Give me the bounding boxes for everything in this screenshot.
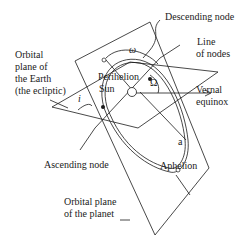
line-of-nodes-label-1: Line — [197, 36, 216, 47]
semi-major-axis-symbol: a — [178, 136, 183, 147]
omega-symbol: ω — [129, 44, 136, 55]
ecliptic-label-1: Orbital — [15, 49, 44, 60]
inclination-symbol: i — [78, 93, 81, 104]
ecliptic-label-2: plane of — [15, 61, 48, 72]
aphelion-label: Aphelion — [160, 160, 197, 171]
sun-icon — [128, 88, 137, 97]
ascending-node-label: Ascending node — [44, 159, 109, 170]
planet-plane-label-2: of the planet — [64, 208, 114, 219]
inclination-arc — [78, 104, 92, 110]
orbital-elements-diagram: Descending node Line of nodes Orbital pl… — [0, 0, 251, 242]
descending-node-label: Descending node — [165, 11, 235, 22]
ecliptic-label-4: (the ecliptic) — [15, 85, 66, 97]
vernal-equinox-label-2: equinox — [196, 96, 228, 107]
sun-label: Sun — [99, 83, 115, 94]
vernal-equinox-label-1: Vernal — [196, 84, 222, 95]
ascending-node-dot — [101, 105, 105, 109]
line-of-nodes-label-2: of nodes — [196, 48, 230, 59]
ecliptic-label-3: the Earth — [15, 73, 51, 84]
planet-perihelion-icon — [102, 58, 106, 62]
perihelion-label: Perihelion — [98, 71, 139, 82]
planet-plane-label-1: Orbital plane — [64, 196, 117, 207]
capital-omega-symbol: Ω — [150, 77, 157, 88]
